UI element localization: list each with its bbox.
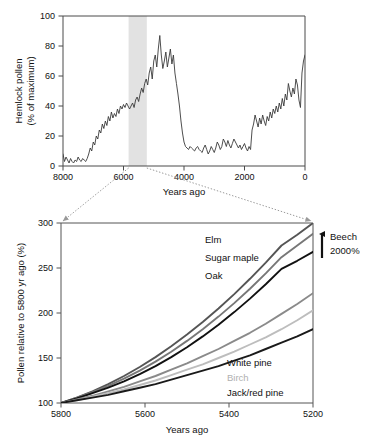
series-label-jack-red-pine: Jack/red pine [227,387,284,398]
beech-annotation-value: 2000% [330,245,360,256]
top-chart-x-ticklabels: 8000 6000 4000 2000 0 [53,172,308,182]
top-xtick-8000: 8000 [53,172,73,182]
top-ytick-20: 20 [45,131,55,141]
series-label-white-pine: White pine [227,357,272,368]
top-xtick-0: 0 [302,172,307,182]
bottom-ytick-250: 250 [38,263,53,273]
top-chart-y-ticks [59,16,64,166]
top-ytick-100: 100 [40,11,55,21]
top-chart-frame [63,16,305,166]
bottom-chart-y-ticks [57,223,62,403]
hemlock-pollen-line [63,36,305,164]
bottom-chart: 100 150 200 250 300 5800 5600 5400 5200 … [15,218,360,435]
bottom-ytick-150: 150 [38,353,53,363]
top-chart-yaxis-title-line2: (% of maximum) [25,56,36,125]
bottom-chart-y-ticklabels: 100 150 200 250 300 [38,218,53,408]
series-label-birch: Birch [227,372,249,383]
bottom-xtick-5400: 5400 [219,409,239,419]
series-label-elm: Elm [205,234,221,245]
top-ytick-0: 0 [50,161,55,171]
top-ytick-80: 80 [45,41,55,51]
bottom-ytick-100: 100 [38,398,53,408]
bottom-xtick-5800: 5800 [51,409,71,419]
curve-oak [61,252,313,403]
bottom-ytick-200: 200 [38,308,53,318]
top-ytick-60: 60 [45,71,55,81]
bottom-chart-xaxis-title: Years ago [166,424,208,435]
hemlock-decline-band [129,16,147,166]
top-ytick-40: 40 [45,101,55,111]
top-chart-xaxis-title: Years ago [163,186,205,197]
bottom-ytick-300: 300 [38,218,53,228]
pollen-growth-curves [61,223,313,403]
series-label-oak: Oak [205,270,223,281]
hemlock-pollen-figure: 0 20 40 60 80 100 8000 6000 4000 2000 0 … [0,0,368,443]
series-label-sugar-maple: Sugar maple [205,252,259,263]
bottom-chart-x-ticklabels: 5800 5600 5400 5200 [51,409,323,419]
bottom-chart-x-ticks [61,403,313,408]
beech-annotation-label: Beech [330,231,357,242]
top-xtick-6000: 6000 [113,172,133,182]
top-chart-y-ticklabels: 0 20 40 60 80 100 [40,11,55,171]
top-chart: 0 20 40 60 80 100 8000 6000 4000 2000 0 … [13,11,308,197]
top-chart-x-ticks [63,166,305,171]
top-chart-yaxis-title-line1: Hemlock pollen [13,59,24,124]
bottom-xtick-5600: 5600 [135,409,155,419]
top-xtick-2000: 2000 [234,172,254,182]
bottom-chart-yaxis-title: Pollen relative to 5800 yr ago (%) [15,243,26,383]
bottom-xtick-5200: 5200 [303,409,323,419]
